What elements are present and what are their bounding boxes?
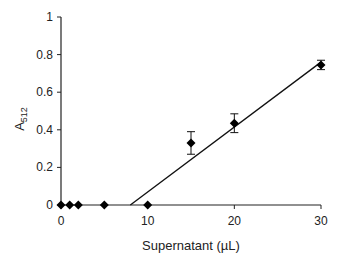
diamond-marker bbox=[187, 138, 196, 147]
y-tick-label: 0.4 bbox=[36, 123, 53, 137]
data-points bbox=[57, 60, 326, 209]
diamond-marker bbox=[230, 119, 239, 128]
diamond-marker bbox=[74, 201, 83, 210]
y-axis-title: A512 bbox=[12, 107, 29, 131]
x-tick-label: 0 bbox=[58, 214, 65, 228]
fit-line bbox=[130, 62, 321, 205]
diamond-marker bbox=[57, 201, 66, 210]
chart: 00.20.40.60.81 0102030 Supernatant (µL) … bbox=[0, 0, 341, 262]
x-tick-label: 10 bbox=[141, 214, 155, 228]
regression-line bbox=[130, 62, 321, 205]
y-tick-label: 0.6 bbox=[36, 85, 53, 99]
y-tick-label: 0 bbox=[46, 198, 53, 212]
y-tick-label: 0.2 bbox=[36, 160, 53, 174]
diamond-marker bbox=[100, 201, 109, 210]
y-tick-label: 0.8 bbox=[36, 48, 53, 62]
diamond-marker bbox=[65, 201, 74, 210]
x-tick-label: 20 bbox=[228, 214, 242, 228]
x-axis: 0102030 bbox=[58, 205, 328, 228]
y-tick-label: 1 bbox=[46, 10, 53, 24]
diamond-marker bbox=[317, 60, 326, 69]
y-axis: 00.20.40.60.81 bbox=[36, 10, 61, 212]
x-axis-title: Supernatant (µL) bbox=[142, 238, 240, 253]
x-tick-label: 30 bbox=[314, 214, 328, 228]
diamond-marker bbox=[143, 201, 152, 210]
